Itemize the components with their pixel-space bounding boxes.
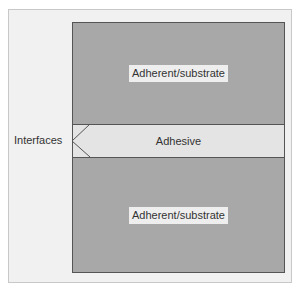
interfaces-leader-lines <box>0 0 302 290</box>
